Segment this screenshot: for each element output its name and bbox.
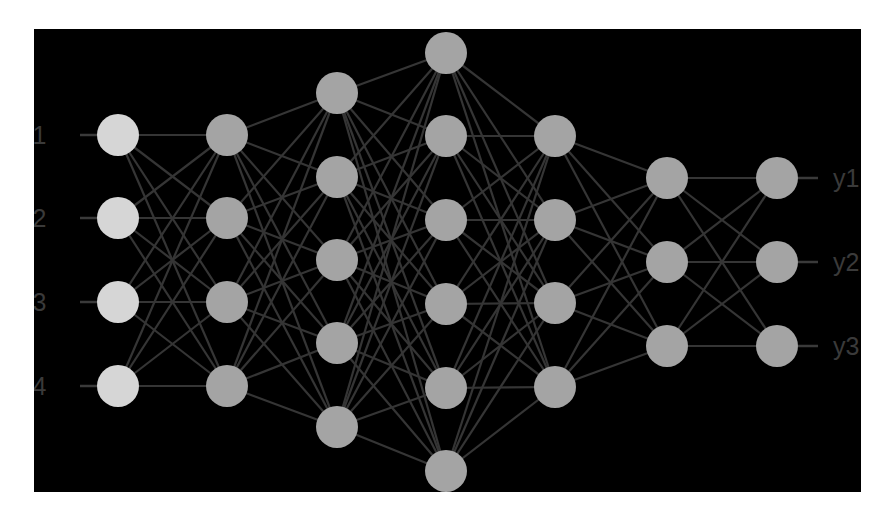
hidden-neuron-hidden-1 (206, 114, 248, 156)
input-neuron-input (97, 114, 139, 156)
hidden-neuron-hidden-1 (206, 281, 248, 323)
output-label: y2 (833, 248, 859, 276)
output-neuron-output (756, 241, 798, 283)
input-label: x2 (34, 204, 46, 232)
connection-edge (446, 220, 555, 471)
hidden-neuron-hidden-5 (646, 157, 688, 199)
hidden-neuron-hidden-3 (425, 32, 467, 74)
io-stubs (80, 135, 818, 386)
hidden-neuron-hidden-4 (534, 199, 576, 241)
hidden-neuron-hidden-4 (534, 282, 576, 324)
hidden-neuron-hidden-3 (425, 450, 467, 492)
hidden-neuron-hidden-2 (316, 322, 358, 364)
input-label: x3 (34, 288, 46, 316)
input-label: x1 (34, 121, 46, 149)
hidden-neuron-hidden-3 (425, 199, 467, 241)
neural-network-diagram: x1x2x3x4y1y2y3 (34, 29, 861, 492)
output-neuron-output (756, 157, 798, 199)
hidden-neuron-hidden-4 (534, 366, 576, 408)
hidden-neuron-hidden-3 (425, 283, 467, 325)
hidden-neuron-hidden-3 (425, 367, 467, 409)
hidden-neuron-hidden-5 (646, 325, 688, 367)
hidden-neuron-hidden-1 (206, 365, 248, 407)
output-neuron-output (756, 325, 798, 367)
hidden-neuron-hidden-2 (316, 72, 358, 114)
io-labels: x1x2x3x4y1y2y3 (34, 121, 859, 400)
output-label: y1 (833, 164, 859, 192)
input-label: x4 (34, 372, 47, 400)
input-neuron-input (97, 281, 139, 323)
hidden-neuron-hidden-1 (206, 197, 248, 239)
input-neuron-input (97, 365, 139, 407)
input-neuron-input (97, 197, 139, 239)
hidden-neuron-hidden-2 (316, 406, 358, 448)
network-canvas: x1x2x3x4y1y2y3 (34, 29, 861, 492)
hidden-neuron-hidden-3 (425, 115, 467, 157)
hidden-neuron-hidden-2 (316, 156, 358, 198)
hidden-neuron-hidden-2 (316, 239, 358, 281)
hidden-neuron-hidden-4 (534, 115, 576, 157)
hidden-neuron-hidden-5 (646, 241, 688, 283)
output-label: y3 (833, 332, 859, 360)
